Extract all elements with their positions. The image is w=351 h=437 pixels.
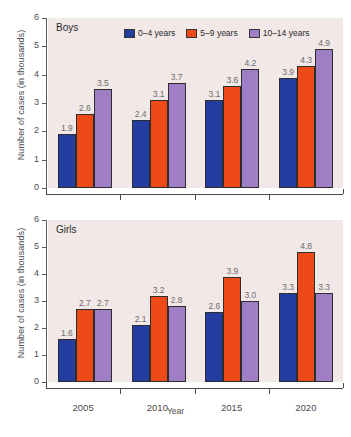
bar-groups-boys: 1.92.63.52.43.13.73.13.64.23.94.34.9 xyxy=(48,18,343,188)
y-tick-1 xyxy=(42,355,47,356)
bar-group-2020: 3.94.34.9 xyxy=(269,18,343,188)
bar-girls-2010-2[interactable] xyxy=(150,296,168,382)
panel-boys: Number of cases (in thousands) Boys 0–4 … xyxy=(0,8,351,210)
bar-boys-2010-2[interactable] xyxy=(150,100,168,188)
y-tick-6 xyxy=(42,220,47,221)
x-tick xyxy=(195,389,196,394)
bar-slot: 3.1 xyxy=(150,18,168,188)
y-tick-3 xyxy=(42,103,47,104)
bar-slot: 3.9 xyxy=(223,220,241,382)
figure: Number of cases (in thousands) Boys 0–4 … xyxy=(0,0,351,437)
x-tick xyxy=(120,389,121,394)
x-tick xyxy=(343,189,344,194)
bar-girls-2020-1[interactable] xyxy=(279,293,297,382)
y-tick-4 xyxy=(42,75,47,76)
y-tick-label-3: 3 xyxy=(24,98,39,107)
bar-slot: 3.7 xyxy=(168,18,186,188)
bar-slot: 4.2 xyxy=(241,18,259,188)
bar-girls-2020-3[interactable] xyxy=(315,293,333,382)
y-tick-6 xyxy=(42,18,47,19)
y-tick-label-3: 3 xyxy=(24,296,39,305)
bar-value-label: 4.2 xyxy=(237,58,263,68)
bar-value-label: 3.5 xyxy=(90,78,116,88)
bar-boys-2015-1[interactable] xyxy=(205,100,223,188)
bar-girls-2020-2[interactable] xyxy=(297,252,315,382)
y-tick-5 xyxy=(42,247,47,248)
y-tick-label-1: 1 xyxy=(24,350,39,359)
x-tick xyxy=(120,195,121,200)
bar-boys-2010-3[interactable] xyxy=(168,83,186,188)
bar-boys-2015-3[interactable] xyxy=(241,69,259,188)
y-tick-label-6: 6 xyxy=(24,13,39,22)
bar-boys-2020-3[interactable] xyxy=(315,49,333,188)
bar-girls-2015-3[interactable] xyxy=(241,301,259,382)
bar-slot: 2.6 xyxy=(76,18,94,188)
y-tick-5 xyxy=(42,46,47,47)
bar-boys-2005-1[interactable] xyxy=(58,134,76,188)
bar-slot: 3.5 xyxy=(94,18,112,188)
bar-slot: 3.6 xyxy=(223,18,241,188)
y-tick-label-6: 6 xyxy=(24,215,39,224)
bar-value-label: 3.0 xyxy=(237,290,263,300)
y-tick-label-5: 5 xyxy=(24,242,39,251)
bar-slot: 2.1 xyxy=(132,220,150,382)
bar-value-label: 3.3 xyxy=(311,282,337,292)
y-tick-label-5: 5 xyxy=(24,41,39,50)
bar-groups-girls: 1.62.72.72.13.22.82.63.93.03.34.83.3 xyxy=(48,220,343,382)
y-tick-2 xyxy=(42,328,47,329)
x-tick xyxy=(269,195,270,200)
y-tick-4 xyxy=(42,274,47,275)
x-tick xyxy=(343,383,344,388)
bar-boys-2005-3[interactable] xyxy=(94,89,112,188)
bar-group-2005: 1.62.72.7 xyxy=(48,220,122,382)
bar-slot: 2.7 xyxy=(94,220,112,382)
bar-group-2010: 2.13.22.8 xyxy=(122,220,196,382)
bar-value-label: 3.7 xyxy=(164,72,190,82)
bar-girls-2005-2[interactable] xyxy=(76,309,94,382)
bar-value-label: 2.8 xyxy=(164,295,190,305)
x-tick xyxy=(195,195,196,200)
bar-slot: 3.9 xyxy=(279,18,297,188)
x-tick xyxy=(46,189,47,194)
y-tick-label-0: 0 xyxy=(24,377,39,386)
y-tick-label-1: 1 xyxy=(24,155,39,164)
bar-girls-2005-3[interactable] xyxy=(94,309,112,382)
bar-slot: 3.1 xyxy=(205,18,223,188)
bar-boys-2005-2[interactable] xyxy=(76,114,94,188)
bar-boys-2015-2[interactable] xyxy=(223,86,241,188)
x-tick xyxy=(46,383,47,388)
panel-girls: Number of cases (in thousands) Girls 012… xyxy=(0,212,351,402)
x-axis-title: Year xyxy=(0,406,351,416)
y-tick-label-4: 4 xyxy=(24,269,39,278)
bar-slot: 2.4 xyxy=(132,18,150,188)
bar-value-label: 4.9 xyxy=(311,38,337,48)
y-tick-label-2: 2 xyxy=(24,323,39,332)
bar-group-2015: 3.13.64.2 xyxy=(196,18,270,188)
y-tick-label-4: 4 xyxy=(24,70,39,79)
bar-girls-2010-1[interactable] xyxy=(132,325,150,382)
bar-boys-2020-1[interactable] xyxy=(279,78,297,189)
bar-value-label: 2.7 xyxy=(90,298,116,308)
bar-slot: 4.9 xyxy=(315,18,333,188)
bar-boys-2010-1[interactable] xyxy=(132,120,150,188)
y-tick-2 xyxy=(42,131,47,132)
y-tick-1 xyxy=(42,160,47,161)
x-tick xyxy=(269,389,270,394)
bar-slot: 2.6 xyxy=(205,220,223,382)
bar-group-2010: 2.43.13.7 xyxy=(122,18,196,188)
bar-slot: 3.3 xyxy=(315,220,333,382)
bar-group-2005: 1.92.63.5 xyxy=(48,18,122,188)
bar-group-2020: 3.34.83.3 xyxy=(269,220,343,382)
bar-girls-2010-3[interactable] xyxy=(168,306,186,382)
bar-girls-2005-1[interactable] xyxy=(58,339,76,382)
bar-slot: 3.0 xyxy=(241,220,259,382)
y-tick-3 xyxy=(42,301,47,302)
y-tick-label-2: 2 xyxy=(24,126,39,135)
bar-girls-2015-1[interactable] xyxy=(205,312,223,382)
bar-group-2015: 2.63.93.0 xyxy=(196,220,270,382)
y-tick-label-0: 0 xyxy=(24,183,39,192)
bar-slot: 2.8 xyxy=(168,220,186,382)
bar-slot: 4.8 xyxy=(297,220,315,382)
bar-boys-2020-2[interactable] xyxy=(297,66,315,188)
